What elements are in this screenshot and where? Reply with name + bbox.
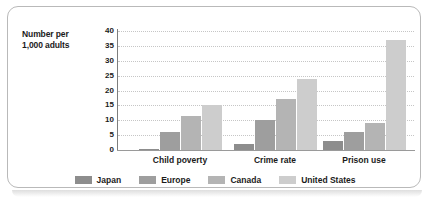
legend-label: Japan <box>97 175 122 185</box>
y-axis-title-line-2: 1,000 adults <box>22 40 100 51</box>
legend-label: Canada <box>230 175 261 185</box>
y-axis-title: Number per 1,000 adults <box>22 29 100 51</box>
y-axis-title-line-1: Number per <box>22 29 100 40</box>
bar <box>139 149 159 150</box>
legend-label: United States <box>301 175 355 185</box>
legend-label: Europe <box>161 175 190 185</box>
bar <box>160 132 180 150</box>
category-label: Prison use <box>304 155 424 165</box>
y-axis-tick-label: 10 <box>105 116 114 124</box>
legend-item[interactable]: United States <box>279 175 355 185</box>
legend-swatch-icon <box>75 176 92 184</box>
chart-figure: Number per 1,000 adults 0510152025303540… <box>7 6 421 188</box>
legend-item[interactable]: Japan <box>75 175 122 185</box>
plot-area <box>118 31 414 150</box>
legend-item[interactable]: Europe <box>139 175 190 185</box>
y-axis-tick-label: 5 <box>110 131 114 139</box>
legend-item[interactable]: Canada <box>208 175 261 185</box>
bar <box>297 79 317 150</box>
y-axis-tick-label: 25 <box>105 72 114 80</box>
bar <box>276 99 296 150</box>
bar <box>234 144 254 150</box>
bar <box>386 40 406 150</box>
y-axis-tick-label: 30 <box>105 57 114 65</box>
legend-swatch-icon <box>208 176 225 184</box>
bar <box>255 120 275 150</box>
legend-swatch-icon <box>279 176 296 184</box>
bar <box>181 116 201 150</box>
figure-shadow <box>12 190 422 197</box>
bar <box>323 141 343 150</box>
y-axis-tick-label: 15 <box>105 101 114 109</box>
bar <box>365 123 385 150</box>
y-axis-tick-label: 20 <box>105 87 114 95</box>
bar <box>202 105 222 150</box>
legend-swatch-icon <box>139 176 156 184</box>
bar-group <box>234 31 317 150</box>
y-axis-tick-label: 0 <box>110 146 114 154</box>
y-axis-tick-labels: 0510152025303540 <box>96 31 114 150</box>
y-axis-tick-label: 40 <box>105 27 114 35</box>
bar-group <box>139 31 222 150</box>
chart-legend: JapanEuropeCanadaUnited States <box>8 175 422 185</box>
y-axis-tick-label: 35 <box>105 42 114 50</box>
bar-group <box>323 31 406 150</box>
bar <box>344 132 364 150</box>
x-axis-line <box>117 150 415 151</box>
